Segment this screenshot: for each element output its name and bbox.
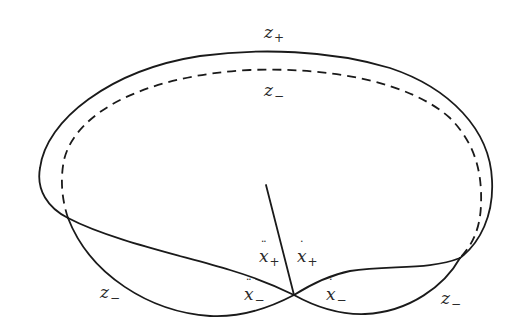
spoke-line bbox=[266, 185, 294, 295]
label-z-minus-left: z− bbox=[100, 284, 120, 304]
label-xdot-plus: x+ bbox=[297, 248, 318, 268]
label-z-plus-top: z+ bbox=[264, 24, 284, 44]
label-xddot-plus: x+ bbox=[259, 248, 280, 268]
label-xddot-minus: x− bbox=[244, 286, 265, 306]
label-z-minus-right: z− bbox=[441, 290, 461, 310]
label-z-minus-inner: z− bbox=[264, 82, 284, 102]
label-xdot-minus: x− bbox=[326, 286, 347, 306]
